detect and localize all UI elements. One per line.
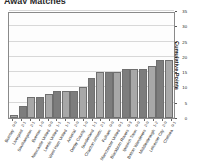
y-tick-label: 25 [182, 41, 187, 45]
x-axis-labels: 0-0Burnley2-1Liverpool2-1Southampton1-0E… [8, 119, 175, 166]
y-tick-label: 10 [182, 86, 187, 90]
y-axis-title: Cumulative Points [171, 12, 183, 119]
gridline [9, 10, 174, 11]
y-tick-label: 5 [185, 102, 187, 106]
y-tick-label: 30 [182, 25, 187, 29]
chart-screenshot: Away Matches 05101520253035 Cumulative P… [0, 0, 202, 166]
plot-area [8, 12, 175, 119]
y-tick-label: 35 [182, 10, 187, 14]
bar-series [9, 13, 174, 118]
chart-title: Away Matches [4, 0, 66, 4]
y-tick-label: 0 [185, 117, 187, 121]
y-tick-label: 15 [182, 71, 187, 75]
y-tick-label: 20 [182, 56, 187, 60]
